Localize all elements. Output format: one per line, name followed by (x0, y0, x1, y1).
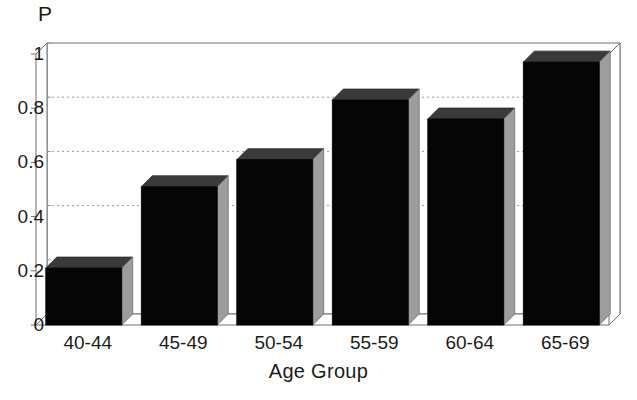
y-tick-label: 0.6 (0, 151, 44, 173)
bar-50-54 (237, 149, 324, 325)
bar-55-59 (332, 89, 419, 325)
bar-60-64 (428, 108, 515, 325)
x-tick-label: 65-69 (541, 332, 590, 354)
x-tick-label: 40-44 (63, 332, 112, 354)
x-tick-label: 60-64 (445, 332, 494, 354)
bar-40-44 (46, 257, 133, 325)
bar-45-49 (141, 176, 228, 325)
y-tick-label: 0.8 (0, 97, 44, 119)
x-axis-title: Age Group (0, 360, 637, 383)
y-tick-label: 0 (0, 314, 44, 336)
y-axis-ticks: 00.20.40.60.81 (0, 0, 44, 400)
x-tick-label: 45-49 (159, 332, 208, 354)
y-tick-label: 1 (0, 43, 44, 65)
y-tick-label: 0.2 (0, 260, 44, 282)
x-tick-label: 50-54 (254, 332, 303, 354)
x-tick-label: 55-59 (350, 332, 399, 354)
bar-65-69 (523, 51, 610, 325)
bar-chart: P 00.20.40.60.81 40-4445-4950-5455-5960-… (0, 0, 637, 400)
y-tick-label: 0.4 (0, 206, 44, 228)
